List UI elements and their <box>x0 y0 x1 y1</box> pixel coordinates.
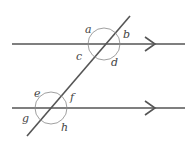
angle-label-f: f <box>69 91 76 104</box>
angle-label-c: c <box>76 50 82 63</box>
transversal-line <box>27 16 130 136</box>
angle-label-e: e <box>34 87 41 100</box>
angle-label-a: a <box>85 23 92 36</box>
parallel-lines-diagram: a b c d e f g h <box>0 0 195 146</box>
angle-label-g: g <box>22 112 29 125</box>
angle-label-b: b <box>123 28 130 41</box>
angle-label-d: d <box>111 56 118 69</box>
angle-label-h: h <box>61 121 68 134</box>
